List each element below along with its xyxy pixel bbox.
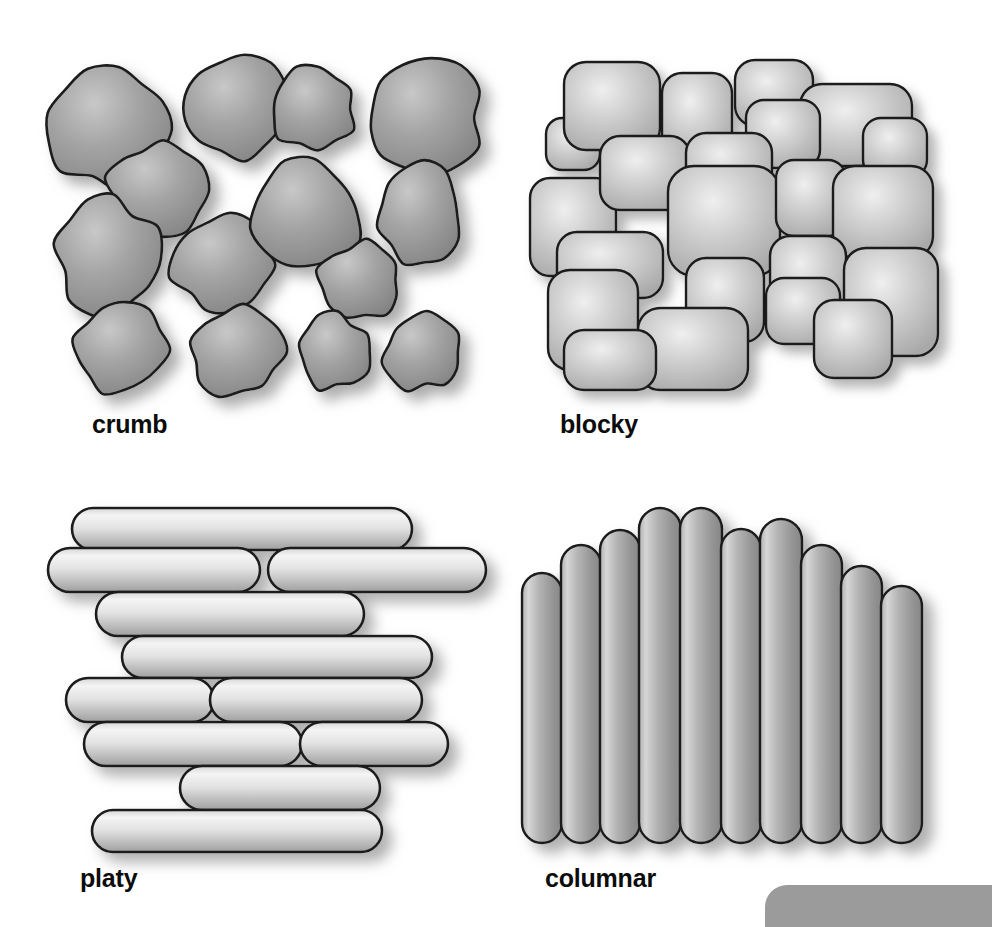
corner-panel-tab <box>765 885 992 927</box>
panel-label-columnar: columnar <box>545 866 656 891</box>
columnar-column-1 <box>522 573 562 843</box>
columnar-column-3 <box>600 530 640 843</box>
columnar-column-9 <box>841 566 882 843</box>
columnar-column-6 <box>721 529 761 843</box>
columnar-column-4 <box>639 508 681 843</box>
columnar-column-5 <box>680 508 722 843</box>
columnar-column-7 <box>760 519 802 843</box>
soil-structure-figure: crumb blocky <box>0 0 992 927</box>
columnar-column-2 <box>561 545 601 843</box>
columnar-column-10 <box>881 586 922 843</box>
panel-columnar: columnar <box>0 0 992 927</box>
columnar-column-8 <box>801 545 842 843</box>
columnar-illustration <box>0 0 992 927</box>
